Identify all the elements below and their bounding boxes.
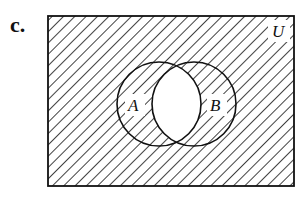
venn-diagram: c. U A B	[0, 0, 304, 198]
universe-label: U	[272, 22, 286, 41]
part-label: c.	[10, 12, 25, 37]
set-a-label: A	[127, 96, 139, 115]
set-b-label: B	[210, 96, 221, 115]
